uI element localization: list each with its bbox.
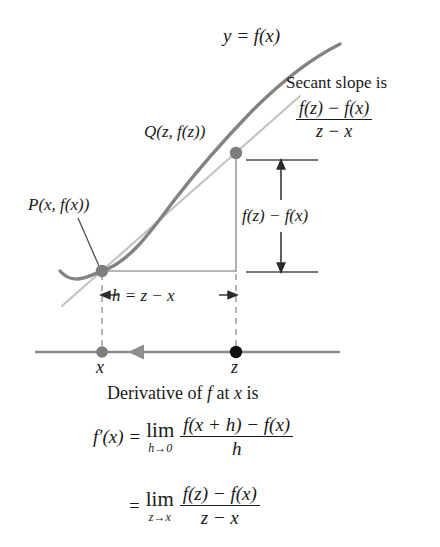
secant-slope-fraction: f(z) − f(x) z − x [296,98,372,141]
z-approaches-x-arrow [128,345,218,360]
formula-two-numerator: f(z) − f(x) [180,483,260,506]
formula-one-numerator: f(x + h) − f(x) [180,414,293,437]
curve-label: y = f(x) [223,26,280,45]
axis-tick-label-z-text: z [231,357,238,377]
derivative-caption: Derivative of f at x is [107,384,259,402]
formula-one-lhs: f′(x) [93,427,124,446]
formula-one-lim-subscript: h→0 [146,442,174,454]
secant-denominator: z − x [296,120,372,141]
derivative-formula-h: f′(x) = lim h→0 f(x + h) − f(x) h [93,414,293,460]
point-p-label-text: P(x, f(x)) [28,195,89,214]
point-p-label: P(x, f(x)) [28,196,89,213]
run-arrow-right [219,291,237,298]
point-q-marker [230,147,242,159]
axis-tick-label-x-text: x [96,357,104,377]
caption-x: x [234,383,242,403]
formula-two-denominator: z − x [180,506,260,528]
formula-two-equals: = [129,496,140,515]
point-p-marker [96,265,108,277]
run-measurement-text: h = z − x [112,286,175,305]
axis-tick-label-z: z [231,358,238,376]
rise-measurement-text: f(z) − f(x) [242,206,308,225]
curve-label-text: y = f(x) [223,25,280,46]
derivative-diagram: y = f(x) Secant slope is f(z) − f(x) z −… [0,0,440,547]
caption-pre: Derivative of [107,383,202,403]
formula-one-lim-text: lim [146,420,174,441]
formula-one-equals: = [130,427,141,446]
point-q-label: Q(z, f(z)) [144,123,205,140]
caption-post: is [246,383,258,403]
formula-two-lim-subscript: z→x [146,511,174,523]
axis-tick-label-x: x [96,358,104,376]
caption-mid: at [216,383,229,403]
formula-one-denominator: h [180,437,293,459]
run-measurement-label: h = z − x [112,287,175,304]
formula-two-lim-text: lim [146,489,174,510]
leader-line-p [78,218,99,266]
secant-slope-caption-text: Secant slope is [286,73,387,92]
secant-slope-caption: Secant slope is [286,74,387,91]
formula-two-limit: lim z→x [146,489,174,523]
formula-one-limit: lim h→0 [146,420,174,454]
point-q-label-text: Q(z, f(z)) [144,122,205,141]
derivative-formula-z: = lim z→x f(z) − f(x) z − x [129,483,260,529]
rise-measurement-label: f(z) − f(x) [242,207,308,224]
secant-numerator: f(z) − f(x) [296,98,372,120]
